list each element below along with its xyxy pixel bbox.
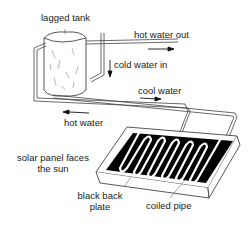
lagged-tank bbox=[44, 32, 86, 96]
label-hot-water: hot water bbox=[64, 117, 103, 128]
hot-water-out-arrow-icon bbox=[148, 47, 174, 51]
label-hot-water-out: hot water out bbox=[134, 29, 189, 40]
label-cold-water-in: cold water in bbox=[114, 59, 167, 70]
cool-water-arrow-icon bbox=[140, 97, 161, 101]
label-solar-panel-line2: the sun bbox=[13, 163, 93, 174]
label-solar-panel-line1: solar panel faces bbox=[13, 152, 93, 163]
label-black-back-plate-line2: plate bbox=[74, 201, 126, 212]
hot-water-arrow-icon bbox=[63, 110, 89, 114]
label-black-back-plate-line1: black back bbox=[74, 190, 126, 201]
cold-water-in-arrow-icon bbox=[108, 60, 112, 77]
label-coiled-pipe: coiled pipe bbox=[146, 200, 191, 211]
label-cool-water: cool water bbox=[138, 85, 181, 96]
label-lagged-tank: lagged tank bbox=[41, 12, 90, 23]
